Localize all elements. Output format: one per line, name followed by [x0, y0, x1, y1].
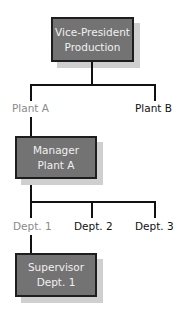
- vp-production-box: Vice-President Production: [51, 17, 134, 62]
- manager-title-line2: Plant A: [38, 158, 75, 173]
- connector-dept-1-to-supervisor: [30, 235, 32, 254]
- connector-level1-horizontal: [30, 84, 156, 86]
- connector-to-plant-b: [154, 84, 156, 101]
- supervisor-dept-1-box: Supervisor Dept. 1: [15, 253, 97, 297]
- manager-title-line1: Manager: [33, 143, 79, 158]
- connector-to-plant-a: [30, 84, 32, 101]
- org-chart: Vice-President Production Plant A Plant …: [0, 0, 185, 320]
- connector-level2-horizontal: [30, 201, 156, 203]
- dept-3-label: Dept. 3: [135, 220, 174, 232]
- connector-to-dept-1: [30, 201, 32, 218]
- supervisor-title-line1: Supervisor: [28, 260, 84, 275]
- connector-vp-down: [91, 62, 93, 86]
- supervisor-title-line2: Dept. 1: [37, 275, 76, 290]
- connector-plant-a-to-manager: [30, 117, 32, 137]
- plant-b-label: Plant B: [135, 102, 172, 114]
- vp-title-line1: Vice-President: [55, 25, 130, 40]
- plant-a-label: Plant A: [12, 102, 49, 114]
- dept-1-label: Dept. 1: [13, 220, 52, 232]
- manager-plant-a-box: Manager Plant A: [15, 136, 97, 179]
- connector-to-dept-2: [91, 201, 93, 218]
- connector-to-dept-3: [154, 201, 156, 218]
- dept-2-label: Dept. 2: [74, 220, 113, 232]
- vp-title-line2: Production: [65, 40, 121, 55]
